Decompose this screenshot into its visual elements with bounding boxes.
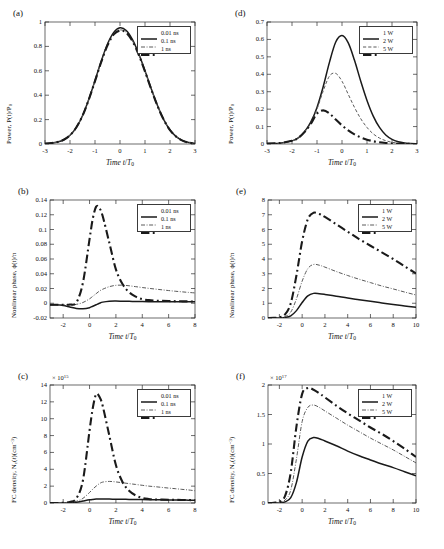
series-line-f-1: [268, 405, 416, 503]
legend-label-f-1: 2 W: [382, 401, 392, 407]
legend-entry-f-2: 5 W: [359, 408, 411, 416]
figure-canvas: (a)00.20.40.60.81-3-2-10123Time t/T0Powe…: [0, 0, 444, 549]
legend-swatch-f-0: [361, 392, 379, 400]
legend-label-f-0: 1 W: [382, 393, 392, 399]
legend-swatch-f-2: [361, 408, 379, 416]
plot-area-f: [0, 0, 444, 549]
legend-f: 1 W2 W5 W: [358, 389, 412, 417]
legend-swatch-f-1: [361, 400, 379, 408]
panel-f: (f)× 101700.511.52-20246810Time t/T0FC d…: [0, 0, 444, 549]
legend-entry-f-0: 1 W: [359, 392, 411, 400]
legend-entry-f-1: 2 W: [359, 400, 411, 408]
legend-label-f-2: 5 W: [382, 409, 392, 415]
